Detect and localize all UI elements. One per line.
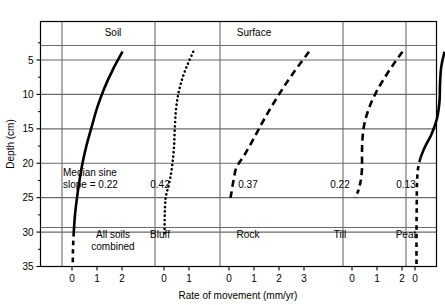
x-tick-label-till-2: 2 [399,273,405,284]
x-tick-label-till-1: 1 [374,273,380,284]
x-tick-label-rock-3: 3 [301,273,307,284]
x-tick-label-till-0: 0 [349,273,355,284]
median-sine-slope-note-line1: Median sine [63,167,117,178]
x-tick-label-bluff-0: 0 [161,273,167,284]
y-tick-label-25: 25 [22,192,34,203]
group-label-soil: Soil [105,27,122,38]
median-sine-slope-note-line2: slope = 0.22 [63,179,118,190]
y-tick-label-30: 30 [22,227,34,238]
panel-name-bluff: Bluff [150,229,170,240]
y-tick-label-15: 15 [22,123,34,134]
y-tick-label-10: 10 [22,89,34,100]
x-tick-label-rock-1: 1 [251,273,257,284]
figure-root: Young pit results 5101520253035 Depth (c… [0,0,445,305]
panel-value-peat: 0.13 [396,179,416,190]
panel-value-rock: 0.37 [238,179,258,190]
x-tick-label-all-soils-combined-2: 2 [119,273,125,284]
x-tick-label-all-soils-combined-0: 0 [69,273,75,284]
x-axis-title: Rate of movement (mm/yr) [179,290,298,301]
panel-value-till: 0.22 [330,179,350,190]
panel-name-all-soils-line1: All soils [96,229,130,240]
y-tick-label-35: 35 [22,261,34,272]
panel-name-rock: Rock [237,229,261,240]
x-tick-label-peat-0: 0 [412,273,418,284]
y-tick-label-20: 20 [22,158,34,169]
y-tick-label-5: 5 [28,55,34,66]
panel-value-bluff: 0.42 [150,179,170,190]
x-tick-label-bluff-1: 1 [186,273,192,284]
panel-name-all-soils-line2: combined [91,241,134,252]
group-label-surface: Surface [237,27,272,38]
y-axis-title: Depth (cm) [5,119,16,168]
panel-name-till: Till [334,229,346,240]
x-tick-label-rock-2: 2 [276,273,282,284]
panel-name-peat: Peat [396,229,417,240]
chart-plot-area: 5101520253035 Depth (cm) 0120101230120 R… [0,0,445,305]
x-tick-label-all-soils-combined-1: 1 [94,273,100,284]
x-tick-label-rock-0: 0 [226,273,232,284]
